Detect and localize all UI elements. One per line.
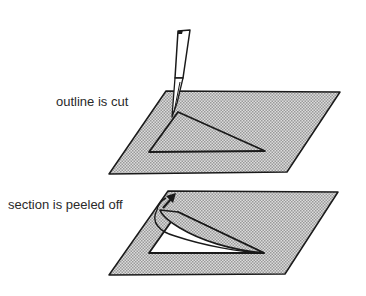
step-2-label: section is peeled off — [8, 198, 123, 211]
step-2-peel — [109, 191, 338, 275]
step-1-cut — [109, 30, 340, 174]
step-1-label: outline is cut — [56, 95, 128, 108]
diagram-canvas — [0, 0, 366, 296]
